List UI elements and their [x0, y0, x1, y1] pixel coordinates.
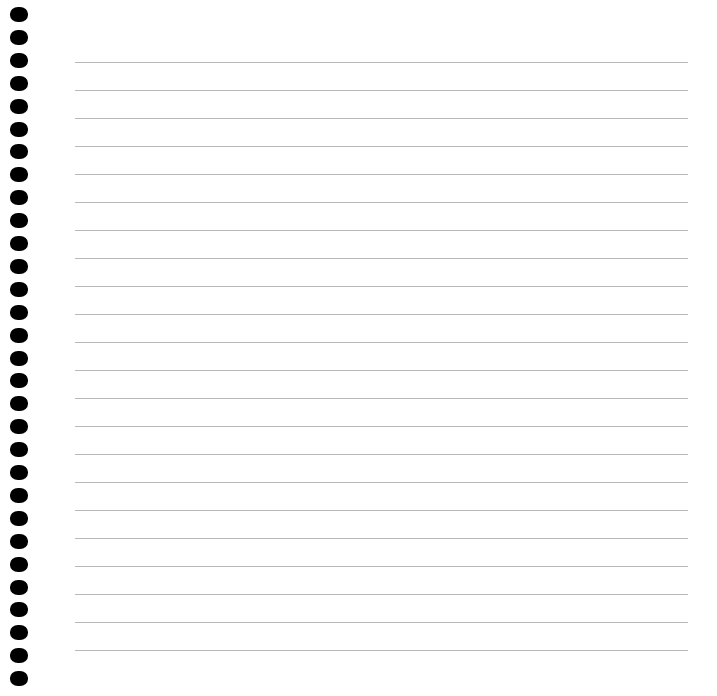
binding-hole	[10, 625, 28, 640]
ruled-line	[75, 258, 688, 259]
ruled-line	[75, 650, 688, 651]
binding-hole	[10, 76, 28, 91]
ruled-line	[75, 454, 688, 455]
binding-hole	[10, 30, 28, 45]
ruled-line	[75, 426, 688, 427]
binding-hole	[10, 167, 28, 182]
ruled-line	[75, 594, 688, 595]
ruled-line	[75, 566, 688, 567]
ruled-line	[75, 90, 688, 91]
binding-hole	[10, 488, 28, 503]
binding-hole	[10, 122, 28, 137]
binding-hole	[10, 190, 28, 205]
notebook-page	[0, 0, 717, 696]
ruled-line	[75, 482, 688, 483]
binding-hole	[10, 351, 28, 366]
binding-hole	[10, 534, 28, 549]
ruled-line	[75, 342, 688, 343]
ruled-line	[75, 118, 688, 119]
binding-hole	[10, 648, 28, 663]
binding-hole	[10, 144, 28, 159]
binding-hole	[10, 465, 28, 480]
ruled-line	[75, 314, 688, 315]
ruled-line	[75, 622, 688, 623]
binding-hole	[10, 328, 28, 343]
binding-hole	[10, 213, 28, 228]
ruled-line	[75, 286, 688, 287]
ruled-line	[75, 370, 688, 371]
binding-hole	[10, 580, 28, 595]
binding-hole	[10, 305, 28, 320]
ruled-line	[75, 62, 688, 63]
binding-hole	[10, 419, 28, 434]
binding-hole	[10, 442, 28, 457]
binding-hole	[10, 396, 28, 411]
binding-hole	[10, 282, 28, 297]
ruled-line	[75, 398, 688, 399]
binding-hole	[10, 7, 28, 22]
ruled-line	[75, 538, 688, 539]
binding-hole	[10, 259, 28, 274]
ruled-line	[75, 510, 688, 511]
binding-hole	[10, 99, 28, 114]
binding-hole	[10, 511, 28, 526]
binding-hole	[10, 53, 28, 68]
ruled-line	[75, 146, 688, 147]
binding-hole	[10, 373, 28, 388]
ruled-line	[75, 174, 688, 175]
binding-hole	[10, 671, 28, 686]
binding-hole	[10, 602, 28, 617]
binding-hole	[10, 557, 28, 572]
binding-hole	[10, 236, 28, 251]
ruled-line	[75, 230, 688, 231]
ruled-line	[75, 202, 688, 203]
